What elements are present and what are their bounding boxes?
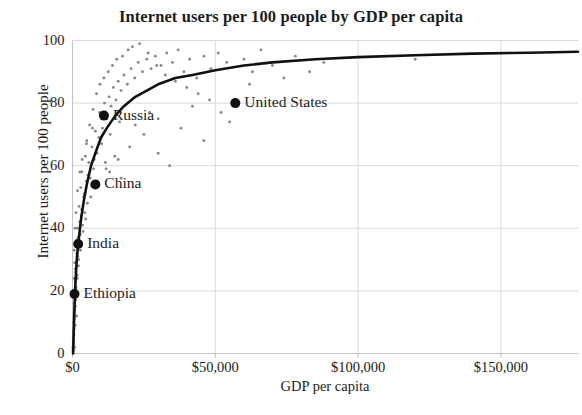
highlighted-point <box>70 289 80 299</box>
scatter-point <box>79 186 82 189</box>
scatter-point <box>74 227 77 230</box>
scatter-point <box>121 55 124 58</box>
scatter-point <box>242 58 245 61</box>
scatter-point <box>137 61 140 64</box>
scatter-point <box>82 230 85 233</box>
scatter-point <box>89 196 92 199</box>
scatter-point <box>138 42 141 45</box>
plot-canvas <box>0 0 582 415</box>
gridlines <box>73 41 579 354</box>
scatter-point <box>164 73 167 76</box>
scatter-point <box>94 130 97 133</box>
scatter-point <box>202 55 205 58</box>
scatter-point <box>79 249 82 252</box>
scatter-point <box>83 211 86 214</box>
scatter-point <box>157 152 160 155</box>
annotation-label-united-states: United States <box>244 93 327 111</box>
highlighted-point <box>99 111 109 121</box>
scatter-point <box>248 83 251 86</box>
highlighted-point <box>73 239 83 249</box>
scatter-point <box>115 58 118 61</box>
scatter-point <box>177 48 180 51</box>
scatter-point <box>120 89 123 92</box>
scatter-point <box>102 77 105 80</box>
annotation-label-ethiopia: Ethiopia <box>83 284 136 302</box>
scatter-point <box>185 86 188 89</box>
scatter-point <box>208 99 211 102</box>
scatter-point <box>225 61 228 64</box>
x-tick-label: $50,000 <box>192 359 239 376</box>
scatter-point <box>117 80 120 83</box>
scatter-point <box>217 52 220 55</box>
scatter-point <box>87 161 90 164</box>
scatter-point <box>142 133 145 136</box>
highlighted-points <box>70 98 241 299</box>
scatter-point <box>145 58 148 61</box>
y-tick-label: 20 <box>19 282 65 299</box>
scatter-point <box>414 58 417 61</box>
scatter-point <box>271 64 274 67</box>
scatter-point <box>174 80 177 83</box>
scatter-point <box>117 158 120 161</box>
scatter-point <box>88 124 91 127</box>
scatter-point <box>131 45 134 48</box>
scatter-point <box>103 102 106 105</box>
scatter-point <box>109 133 112 136</box>
chart-figure: Internet users per 100 people by GDP per… <box>0 0 582 415</box>
scatter-point <box>282 77 285 80</box>
scatter-point <box>191 105 194 108</box>
scatter-point <box>73 249 76 252</box>
scatter-point <box>157 117 160 120</box>
annotation-label-china: China <box>104 174 141 192</box>
x-tick-label: $150,000 <box>474 359 528 376</box>
chart-title: Internet users per 100 people by GDP per… <box>0 7 582 27</box>
scatter-points <box>72 42 417 352</box>
scatter-point <box>113 155 116 158</box>
scatter-point <box>141 70 144 73</box>
scatter-point <box>251 70 254 73</box>
scatter-point <box>180 127 183 130</box>
axis-lines <box>73 41 579 354</box>
scatter-point <box>107 70 110 73</box>
scatter-point <box>95 92 98 95</box>
scatter-point <box>74 211 77 214</box>
scatter-point <box>92 167 95 170</box>
scatter-point <box>90 145 93 148</box>
y-tick-label: 0 <box>19 345 65 362</box>
scatter-point <box>98 83 101 86</box>
scatter-point <box>134 124 137 127</box>
scatter-point <box>228 120 231 123</box>
scatter-point <box>128 145 131 148</box>
scatter-point <box>81 158 84 161</box>
tick-marks <box>73 354 501 358</box>
y-tick-label: 40 <box>19 219 65 236</box>
scatter-point <box>171 61 174 64</box>
scatter-point <box>85 139 88 142</box>
scatter-point <box>108 171 111 174</box>
scatter-point <box>122 73 125 76</box>
scatter-point <box>126 83 129 86</box>
scatter-point <box>188 58 191 61</box>
scatter-point <box>101 127 104 130</box>
x-tick-label: $0 <box>65 359 80 376</box>
scatter-point <box>147 52 150 55</box>
scatter-point <box>108 95 111 98</box>
scatter-point <box>308 70 311 73</box>
scatter-point <box>260 48 263 51</box>
y-tick-label: 80 <box>19 94 65 111</box>
scatter-point <box>86 202 89 205</box>
scatter-point <box>195 77 198 80</box>
y-tick-label: 60 <box>19 157 65 174</box>
scatter-point <box>133 77 136 80</box>
scatter-point <box>85 142 88 145</box>
scatter-point <box>105 167 108 170</box>
scatter-point <box>91 127 94 130</box>
y-tick-label: 100 <box>19 32 65 49</box>
scatter-point <box>78 205 81 208</box>
scatter-point <box>84 217 87 220</box>
scatter-point <box>84 155 87 158</box>
scatter-point <box>114 99 117 102</box>
scatter-point <box>220 111 223 114</box>
scatter-point <box>165 52 168 55</box>
scatter-point <box>294 55 297 58</box>
